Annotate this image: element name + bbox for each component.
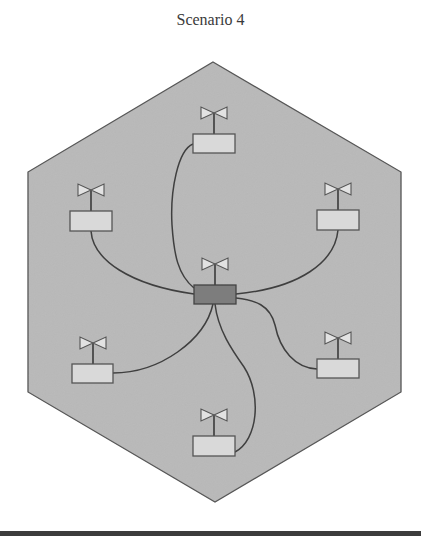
bottom-divider (0, 531, 421, 536)
network-diagram (0, 0, 421, 536)
